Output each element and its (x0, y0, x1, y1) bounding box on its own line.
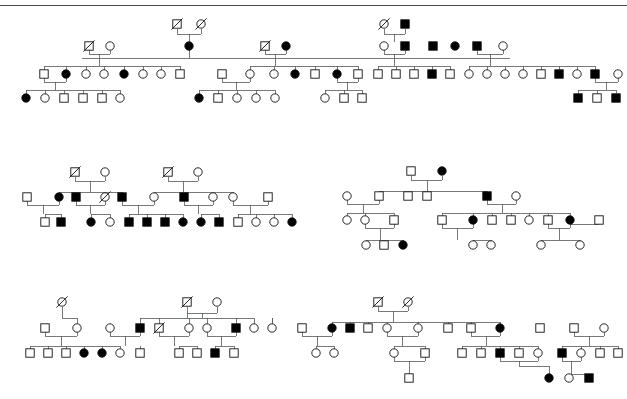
individual-male-unaffected[interactable] (79, 94, 87, 102)
individual-female-affected[interactable] (87, 218, 95, 226)
individual-female-unaffected[interactable] (100, 70, 108, 78)
individual-female-unaffected[interactable] (414, 324, 422, 332)
individual-female-unaffected[interactable] (250, 324, 258, 332)
individual-male-affected[interactable] (180, 193, 188, 201)
individual-female-unaffected[interactable] (600, 324, 608, 332)
individual-female-unaffected-deceased[interactable] (56, 296, 67, 307)
individual-male-affected[interactable] (346, 324, 354, 332)
individual-female-affected[interactable] (438, 167, 446, 175)
individual-female-unaffected[interactable] (203, 324, 211, 332)
individual-male-unaffected[interactable] (596, 349, 604, 357)
individual-female-affected[interactable] (120, 70, 128, 78)
individual-female-affected[interactable] (195, 94, 203, 102)
individual-male-affected[interactable] (143, 218, 151, 226)
individual-female-unaffected[interactable] (499, 42, 507, 50)
individual-female-unaffected[interactable] (380, 42, 388, 50)
individual-female-unaffected[interactable] (106, 218, 114, 226)
individual-female-affected[interactable] (451, 42, 459, 50)
individual-male-affected[interactable] (428, 70, 436, 78)
individual-female-unaffected[interactable] (537, 241, 545, 249)
individual-male-unaffected[interactable] (214, 94, 222, 102)
individual-male-unaffected-deceased[interactable] (181, 296, 192, 307)
individual-male-unaffected[interactable] (446, 70, 454, 78)
individual-male-affected[interactable] (483, 192, 491, 200)
individual-male-affected[interactable] (555, 70, 563, 78)
individual-male-unaffected[interactable] (570, 324, 578, 332)
individual-female-unaffected[interactable] (383, 324, 391, 332)
individual-female-unaffected[interactable] (343, 192, 351, 200)
individual-male-affected[interactable] (429, 42, 437, 50)
individual-male-unaffected-deceased[interactable] (372, 296, 383, 307)
individual-female-affected[interactable] (98, 349, 106, 357)
individual-female-unaffected[interactable] (525, 216, 533, 224)
individual-female-unaffected[interactable] (519, 70, 527, 78)
individual-male-unaffected[interactable] (536, 324, 544, 332)
individual-female-affected[interactable] (282, 42, 290, 50)
individual-male-unaffected[interactable] (136, 349, 144, 357)
individual-female-affected[interactable] (179, 218, 187, 226)
individual-male-affected[interactable] (232, 324, 240, 332)
individual-female-affected[interactable] (62, 70, 70, 78)
individual-male-unaffected[interactable] (41, 218, 49, 226)
individual-male-affected[interactable] (211, 349, 219, 357)
individual-female-unaffected[interactable] (483, 70, 491, 78)
individual-male-unaffected[interactable] (264, 193, 272, 201)
individual-male-unaffected[interactable] (358, 94, 366, 102)
individual-female-unaffected[interactable] (268, 324, 276, 332)
individual-female-affected[interactable] (291, 70, 299, 78)
individual-male-unaffected[interactable] (515, 349, 523, 357)
individual-male-unaffected[interactable] (405, 374, 413, 382)
individual-male-unaffected[interactable] (230, 349, 238, 357)
individual-male-unaffected[interactable] (444, 324, 452, 332)
individual-male-unaffected-deceased[interactable] (153, 322, 164, 333)
individual-female-unaffected[interactable] (270, 70, 278, 78)
individual-male-unaffected[interactable] (488, 216, 496, 224)
individual-female-affected[interactable] (545, 374, 553, 382)
individual-female-affected[interactable] (288, 218, 296, 226)
individual-female-unaffected[interactable] (312, 349, 320, 357)
individual-female-unaffected[interactable] (270, 218, 278, 226)
individual-female-unaffected[interactable] (534, 349, 542, 357)
individual-female-unaffected[interactable] (252, 94, 260, 102)
individual-male-affected[interactable] (612, 94, 620, 102)
individual-male-unaffected-deceased[interactable] (259, 40, 270, 51)
individual-male-affected[interactable] (591, 70, 599, 78)
individual-male-unaffected[interactable] (40, 70, 48, 78)
individual-female-unaffected[interactable] (465, 70, 473, 78)
individual-male-unaffected[interactable] (375, 192, 383, 200)
individual-female-unaffected[interactable] (194, 168, 202, 176)
individual-male-affected[interactable] (574, 94, 582, 102)
individual-female-affected[interactable] (469, 216, 477, 224)
individual-female-unaffected-deceased[interactable] (378, 18, 389, 29)
individual-female-unaffected[interactable] (565, 374, 573, 382)
individual-female-unaffected[interactable] (330, 349, 338, 357)
individual-male-unaffected[interactable] (62, 349, 70, 357)
individual-male-unaffected[interactable] (595, 216, 603, 224)
individual-female-unaffected[interactable] (101, 168, 109, 176)
individual-female-unaffected[interactable] (501, 70, 509, 78)
individual-female-unaffected[interactable] (41, 94, 49, 102)
individual-female-affected[interactable] (399, 241, 407, 249)
individual-female-unaffected[interactable] (229, 193, 237, 201)
individual-male-unaffected-deceased[interactable] (162, 166, 173, 177)
individual-female-unaffected[interactable] (116, 349, 124, 357)
individual-female-unaffected[interactable] (209, 193, 217, 201)
individual-male-unaffected[interactable] (380, 241, 388, 249)
individual-male-unaffected[interactable] (390, 216, 398, 224)
individual-female-unaffected[interactable] (577, 349, 585, 357)
individual-male-unaffected[interactable] (544, 216, 552, 224)
individual-male-unaffected[interactable] (537, 70, 545, 78)
individual-male-unaffected[interactable] (218, 70, 226, 78)
individual-female-unaffected[interactable] (361, 216, 369, 224)
individual-male-unaffected[interactable] (298, 324, 306, 332)
individual-female-affected[interactable] (80, 349, 88, 357)
individual-male-affected[interactable] (72, 193, 80, 201)
individual-male-unaffected[interactable] (421, 349, 429, 357)
individual-male-unaffected[interactable] (44, 349, 52, 357)
individual-male-affected[interactable] (215, 218, 223, 226)
individual-male-unaffected[interactable] (98, 94, 106, 102)
individual-male-unaffected[interactable] (507, 216, 515, 224)
individual-male-unaffected[interactable] (354, 70, 362, 78)
individual-male-affected[interactable] (125, 218, 133, 226)
individual-male-unaffected[interactable] (41, 324, 49, 332)
